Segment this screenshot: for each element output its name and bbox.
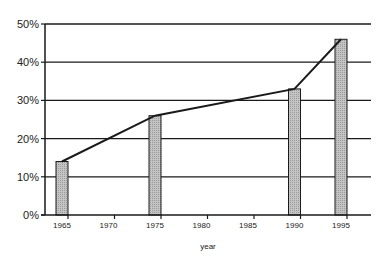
x-axis-title: year [200,242,216,251]
x-tick-label: 1965 [53,221,71,230]
bar-1990 [289,89,301,215]
x-axis-labels: 1965197019751980198519901995 [53,221,350,230]
y-tick-label: 30% [17,94,39,106]
x-tick-label: 1980 [193,221,211,230]
y-tick-label: 40% [17,56,39,68]
y-tick-label: 50% [17,18,39,30]
y-tick-label: 10% [17,171,39,183]
y-tick-label: 20% [17,133,39,145]
x-tick-label: 1970 [100,221,118,230]
x-tick-label: 1990 [286,221,304,230]
x-tick-label: 1975 [146,221,164,230]
gridlines [41,24,371,215]
y-axis-labels: 0%10%20%30%40%50% [17,18,39,221]
x-tick-label: 1995 [332,221,350,230]
bar-1975 [149,116,161,215]
x-tick-label: 1985 [239,221,257,230]
bar-line-chart: 0%10%20%30%40%50% 1965197019751980198519… [0,0,386,265]
axes [41,24,371,219]
bar-1995 [335,39,347,215]
bar-1965 [56,162,68,215]
bars [56,39,347,215]
y-tick-label: 0% [23,209,39,221]
